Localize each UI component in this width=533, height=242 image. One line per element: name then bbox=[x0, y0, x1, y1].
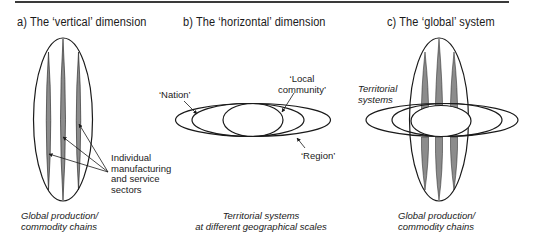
nation-ellipse bbox=[192, 104, 304, 137]
sector-stripe-3 bbox=[76, 52, 81, 190]
region-label: ‘Region’ bbox=[301, 151, 335, 162]
sector-stripe-bottom-3 bbox=[450, 137, 457, 190]
panel-b-diagram bbox=[176, 93, 331, 148]
diagram-canvas bbox=[0, 0, 533, 242]
territorial-systems-label: Territorial systems bbox=[358, 83, 397, 105]
sector-stripe-1 bbox=[46, 52, 51, 190]
local-community-label: ‘Local community’ bbox=[278, 74, 326, 95]
nation-label: ‘Nation’ bbox=[159, 90, 191, 101]
panel-c-caption: Global production/ commodity chains bbox=[398, 210, 475, 232]
local-community-ellipse bbox=[223, 104, 283, 137]
local-community-ellipse-c bbox=[411, 106, 471, 137]
panel-c-diagram bbox=[366, 38, 518, 201]
sector-stripe-bottom-2 bbox=[435, 137, 442, 200]
panel-a-diagram bbox=[34, 38, 109, 201]
region-ellipse bbox=[176, 104, 331, 137]
sectors-callout: Individual manufacturing and service sec… bbox=[111, 153, 171, 195]
panel-b-caption: Territorial systems at different geograp… bbox=[176, 210, 346, 232]
sector-stripe-bottom-1 bbox=[421, 137, 428, 190]
panel-a-caption: Global production/ commodity chains bbox=[21, 210, 98, 232]
sector-stripe-2 bbox=[61, 39, 66, 200]
